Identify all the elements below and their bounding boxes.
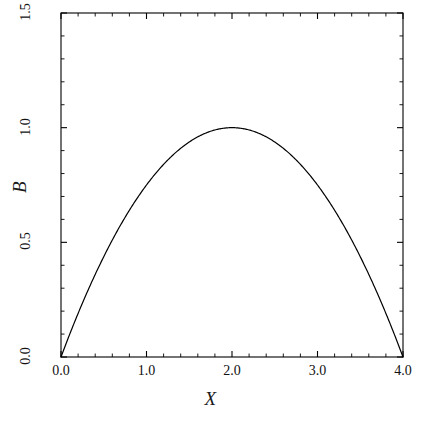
x-tick-label: 1.0 bbox=[117, 363, 177, 379]
x-tick-label: 0.0 bbox=[31, 363, 91, 379]
figure-canvas: X B 0.01.02.03.04.0 0.00.51.01.5 bbox=[0, 0, 421, 422]
x-axis-title: X bbox=[0, 388, 421, 410]
y-tick-label: 1.0 bbox=[18, 97, 34, 157]
x-tick-label: 2.0 bbox=[202, 363, 262, 379]
y-tick-label: 0.0 bbox=[18, 326, 34, 386]
y-tick-label: 1.5 bbox=[18, 0, 34, 42]
y-axis-title: B bbox=[9, 167, 31, 207]
x-tick-label: 3.0 bbox=[288, 363, 348, 379]
plot-frame-rect bbox=[61, 13, 403, 357]
plot-frame bbox=[61, 13, 403, 357]
y-tick-label: 0.5 bbox=[18, 211, 34, 271]
plot-area bbox=[0, 0, 421, 422]
x-tick-label: 4.0 bbox=[373, 363, 421, 379]
